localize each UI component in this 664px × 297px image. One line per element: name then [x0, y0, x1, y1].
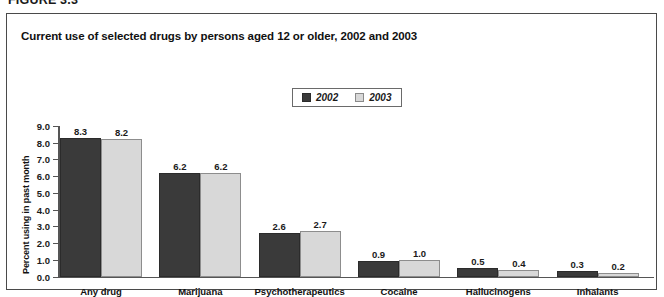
dark-swatch-icon — [302, 93, 311, 102]
bar-2003[interactable]: 0.4 — [498, 270, 539, 277]
bar-group: 2.62.7Psychotherapeutics — [259, 126, 341, 277]
x-axis-category-label: Marijuana — [178, 286, 222, 297]
bar-2003[interactable]: 6.2 — [200, 173, 241, 277]
bar-2002[interactable]: 0.5 — [457, 268, 498, 276]
bar-value-label: 1.0 — [413, 248, 426, 259]
y-tick-mark — [53, 159, 58, 160]
y-tick-label: 1.0 — [37, 254, 50, 265]
bar-pair: 8.38.2 — [60, 126, 142, 277]
y-tick-mark — [53, 193, 58, 194]
bar-group: 0.91.0Cocaine — [358, 126, 440, 277]
y-tick-label: 4.0 — [37, 204, 50, 215]
bar-2002[interactable]: 6.2 — [159, 173, 200, 277]
bar-value-label: 6.2 — [214, 161, 227, 172]
bar-value-label: 2.6 — [273, 221, 286, 232]
y-tick-mark — [53, 243, 58, 244]
bar-2003[interactable]: 1.0 — [399, 260, 440, 277]
bar-2002[interactable]: 2.6 — [259, 233, 300, 276]
bar-2003[interactable]: 2.7 — [300, 231, 341, 276]
y-tick-mark — [53, 143, 58, 144]
y-tick-label: 2.0 — [37, 238, 50, 249]
x-axis-category-label: Cocaine — [381, 286, 418, 297]
x-axis-category-label: Psychotherapeutics — [255, 286, 345, 297]
bar-value-label: 0.3 — [571, 259, 584, 270]
light-swatch-icon — [355, 93, 364, 102]
bar-pair: 2.62.7 — [259, 126, 341, 277]
chart-legend: 2002 2003 — [292, 88, 402, 107]
bar-value-label: 0.2 — [612, 261, 625, 272]
bar-pair: 0.30.2 — [557, 126, 639, 277]
y-tick-mark — [53, 226, 58, 227]
bar-value-label: 6.2 — [173, 161, 186, 172]
legend-label-2003: 2003 — [369, 92, 391, 103]
y-tick-mark — [53, 126, 58, 127]
y-tick-mark — [53, 176, 58, 177]
y-tick-label: 6.0 — [37, 171, 50, 182]
y-tick-label: 8.0 — [37, 137, 50, 148]
figure-frame: Current use of selected drugs by persons… — [6, 13, 657, 290]
x-axis-category-label: Any drug — [80, 286, 122, 297]
chart-title: Current use of selected drugs by persons… — [21, 30, 417, 42]
x-axis-category-label: Hallucinogens — [466, 286, 531, 297]
y-tick-label: 7.0 — [37, 154, 50, 165]
y-tick-mark — [53, 277, 58, 278]
bar-2002[interactable]: 8.3 — [60, 138, 101, 277]
x-axis-line — [58, 277, 654, 279]
legend-entry-2002: 2002 — [302, 92, 338, 103]
legend-entry-2003: 2003 — [355, 92, 391, 103]
y-tick-mark — [53, 210, 58, 211]
bar-2002[interactable]: 0.9 — [358, 261, 399, 276]
y-tick-mark — [53, 260, 58, 261]
plot-area: 0.01.02.03.04.05.06.07.08.09.0 8.38.2Any… — [58, 126, 654, 278]
bar-2003[interactable]: 0.2 — [598, 273, 639, 276]
bar-group: 6.26.2Marijuana — [159, 126, 241, 277]
bar-group: 0.30.2Inhalants — [557, 126, 639, 277]
bar-value-label: 0.5 — [471, 256, 484, 267]
y-tick-label: 5.0 — [37, 187, 50, 198]
bar-value-label: 2.7 — [314, 219, 327, 230]
bar-group: 0.50.4Hallucinogens — [457, 126, 539, 277]
x-axis-category-label: Inhalants — [577, 286, 619, 297]
y-tick-label: 0.0 — [37, 271, 50, 282]
y-tick-label: 9.0 — [37, 121, 50, 132]
bar-2002[interactable]: 0.3 — [557, 271, 598, 276]
y-axis-title: Percent using in past month — [21, 144, 31, 274]
figure-number-label: FIGURE 3.3 — [8, 0, 78, 7]
bar-value-label: 8.3 — [74, 126, 87, 137]
bar-value-label: 0.4 — [512, 258, 525, 269]
bar-value-label: 0.9 — [372, 249, 385, 260]
bar-value-label: 8.2 — [115, 127, 128, 138]
bar-pair: 0.50.4 — [457, 126, 539, 277]
y-tick-label: 3.0 — [37, 221, 50, 232]
bar-group: 8.38.2Any drug — [60, 126, 142, 277]
bar-pair: 6.26.2 — [159, 126, 241, 277]
legend-label-2002: 2002 — [316, 92, 338, 103]
bar-pair: 0.91.0 — [358, 126, 440, 277]
bar-2003[interactable]: 8.2 — [101, 139, 142, 276]
